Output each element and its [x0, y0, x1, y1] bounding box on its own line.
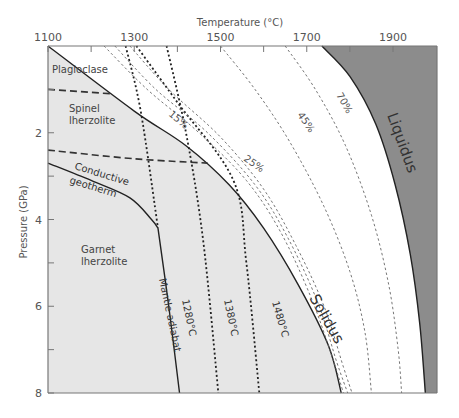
- x-tick-label: 1500: [207, 31, 235, 44]
- x-tick-label: 1100: [34, 31, 62, 44]
- melt-70-label: 70%: [334, 91, 355, 116]
- x-axis-title: Temperature (°C): [196, 17, 283, 28]
- subsolidus-region: [48, 46, 341, 393]
- melt-45-label: 45%: [295, 110, 317, 135]
- y-tick-label: 8: [35, 387, 42, 400]
- y-axis-title: Pressure (GPa): [18, 185, 29, 258]
- plagioclase-label: Plagioclase: [52, 64, 108, 75]
- y-tick-label: 6: [35, 300, 42, 313]
- garnet-label: Garnet: [81, 244, 115, 255]
- spinel-label: Spinel: [69, 103, 100, 114]
- garnet-label-2: lherzolite: [81, 256, 127, 267]
- y-tick-label: 2: [35, 127, 42, 140]
- x-tick-label: 1900: [379, 31, 407, 44]
- x-tick-label: 1300: [120, 31, 148, 44]
- spinel-label-2: lherzolite: [69, 115, 115, 126]
- x-tick-label: 1700: [293, 31, 321, 44]
- y-tick-label: 4: [35, 214, 42, 227]
- phase-diagram: 110013001500170019002468 Temperature (°C…: [0, 0, 459, 418]
- melt-25-label: 25%: [242, 153, 267, 175]
- melt-15-label: 15%: [167, 108, 191, 131]
